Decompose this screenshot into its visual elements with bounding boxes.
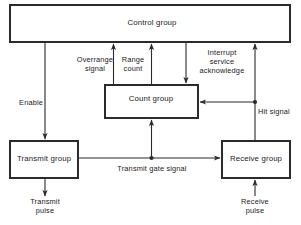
transmit-gate-junction-dot — [149, 156, 153, 160]
hit-signal-label: Hit signal — [258, 107, 290, 116]
enable-label: Enable — [19, 98, 43, 107]
transmit-pulse-label: Transmit pulse — [30, 197, 60, 215]
receive-pulse-label: Receive pulse — [241, 197, 269, 215]
transmit-gate-signal-label: Transmit gate signal — [117, 164, 186, 173]
receive-group-label: Receive group — [230, 154, 282, 163]
range-count-label: Range count — [122, 55, 145, 73]
transmit-group-label: Transmit group — [17, 154, 71, 163]
count-group-label: Count group — [129, 94, 174, 103]
overrange-signal-label: Overrange signal — [77, 55, 113, 73]
control-group-label: Control group — [127, 18, 176, 27]
hit-signal-junction-dot — [253, 100, 257, 104]
interrupt-service-acknowledge-label: Interrupt service acknowledge — [200, 48, 245, 76]
diagram-canvas — [0, 0, 301, 225]
block-diagram: Control group Count group Transmit group… — [0, 0, 301, 225]
